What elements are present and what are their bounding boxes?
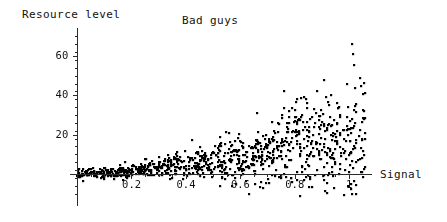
y-tick-minor bbox=[75, 178, 78, 179]
x-tick-minor bbox=[199, 175, 200, 177]
y-tick-minor bbox=[75, 154, 78, 155]
y-tick-minor bbox=[75, 146, 78, 147]
y-tick-minor bbox=[75, 44, 78, 45]
y-tick-minor bbox=[75, 162, 78, 163]
y-tick-minor bbox=[75, 36, 78, 37]
x-tick-label: 1 bbox=[346, 178, 352, 190]
x-tick-minor bbox=[227, 175, 228, 177]
x-tick-minor bbox=[213, 175, 214, 177]
x-tick-minor bbox=[145, 175, 146, 177]
x-tick-minor bbox=[281, 175, 282, 177]
y-tick-major bbox=[73, 135, 78, 136]
x-tick-minor bbox=[267, 175, 268, 177]
y-axis-line bbox=[77, 28, 78, 206]
y-tick-major bbox=[73, 95, 78, 96]
x-tick-minor bbox=[335, 175, 336, 177]
y-tick-minor bbox=[75, 52, 78, 53]
y-tick-minor bbox=[75, 115, 78, 116]
y-tick-label: 20 bbox=[56, 128, 69, 140]
x-axis-line bbox=[70, 174, 372, 175]
y-tick-minor bbox=[75, 186, 78, 187]
x-tick-minor bbox=[104, 175, 105, 177]
y-tick-major bbox=[73, 56, 78, 57]
x-tick-minor bbox=[118, 175, 119, 177]
y-tick-minor bbox=[75, 131, 78, 132]
x-tick-label: 0.6 bbox=[231, 178, 250, 190]
y-tick-minor bbox=[75, 194, 78, 195]
y-tick-minor bbox=[75, 68, 78, 69]
scatter-points-canvas bbox=[0, 0, 447, 222]
y-tick-minor bbox=[75, 91, 78, 92]
y-tick-label: 40 bbox=[56, 88, 69, 100]
y-tick-minor bbox=[75, 170, 78, 171]
x-tick-minor bbox=[172, 175, 173, 177]
x-tick-label: 0.4 bbox=[177, 178, 196, 190]
x-tick-minor bbox=[91, 175, 92, 177]
y-tick-minor bbox=[75, 84, 78, 85]
y-tick-minor bbox=[75, 123, 78, 124]
y-tick-minor bbox=[75, 60, 78, 61]
x-tick-minor bbox=[159, 175, 160, 177]
y-tick-minor bbox=[75, 76, 78, 77]
x-tick-label: 0.2 bbox=[122, 178, 141, 190]
y-tick-minor bbox=[75, 99, 78, 100]
y-tick-minor bbox=[75, 107, 78, 108]
x-tick-minor bbox=[254, 175, 255, 177]
scatter-plot-figure: Resource level Bad guys Signal 2040600.2… bbox=[0, 0, 447, 222]
x-tick-minor bbox=[322, 175, 323, 177]
x-tick-label: 0.8 bbox=[285, 178, 304, 190]
y-tick-label: 60 bbox=[56, 49, 69, 61]
y-tick-minor bbox=[75, 139, 78, 140]
x-tick-minor bbox=[308, 175, 309, 177]
